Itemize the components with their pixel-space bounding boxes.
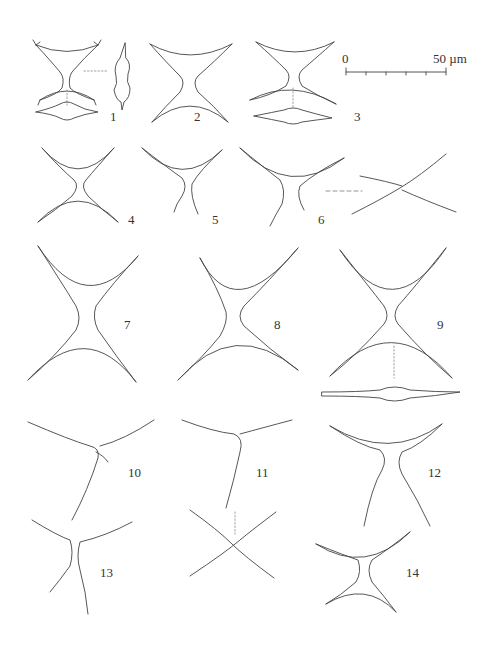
figure-label-2: 2 bbox=[194, 110, 201, 123]
figure-1-side bbox=[114, 43, 130, 110]
figure-label-5: 5 bbox=[212, 213, 219, 226]
figure-label-8: 8 bbox=[274, 318, 281, 331]
figure-label-13: 13 bbox=[100, 566, 113, 579]
figure-label-1: 1 bbox=[110, 110, 117, 123]
figure-6-side bbox=[352, 154, 456, 214]
figure-5 bbox=[142, 148, 222, 214]
figure-label-3: 3 bbox=[354, 110, 361, 123]
figure-4 bbox=[38, 148, 118, 222]
figure-label-7: 7 bbox=[124, 318, 131, 331]
figure-2 bbox=[150, 44, 232, 122]
figure-14 bbox=[316, 532, 410, 612]
figure-9-apical bbox=[322, 387, 460, 401]
figure-8 bbox=[178, 248, 298, 380]
figure-11 bbox=[182, 420, 292, 508]
scale-bar bbox=[346, 68, 446, 75]
plate-drawing bbox=[0, 0, 489, 653]
scale-end-label: 50 µm bbox=[433, 52, 467, 65]
figure-label-4: 4 bbox=[128, 213, 135, 226]
figure-label-9: 9 bbox=[437, 318, 444, 331]
figure-label-6: 6 bbox=[318, 213, 325, 226]
figure-6 bbox=[240, 148, 344, 226]
figure-label-10: 10 bbox=[128, 466, 141, 479]
figure-side-view-bottom bbox=[190, 510, 276, 578]
figure-13 bbox=[32, 520, 132, 614]
figure-label-11: 11 bbox=[256, 466, 269, 479]
figure-3-apical bbox=[254, 108, 332, 124]
figure-9 bbox=[330, 248, 452, 378]
figure-label-14: 14 bbox=[406, 566, 419, 579]
scale-start-label: 0 bbox=[342, 52, 349, 65]
figure-12 bbox=[330, 424, 442, 526]
figure-7 bbox=[28, 246, 138, 382]
figure-label-12: 12 bbox=[428, 466, 441, 479]
